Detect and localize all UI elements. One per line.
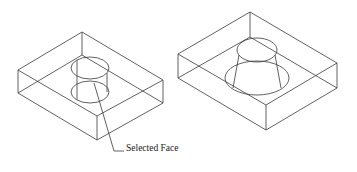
- left-box: [18, 32, 163, 140]
- right-box: [178, 12, 337, 130]
- cone-top-ellipse: [237, 38, 277, 62]
- selected-face-label: Selected Face: [126, 143, 179, 153]
- left-box-top-face: [18, 32, 163, 116]
- left-cylinder: [71, 57, 109, 103]
- right-box-top-face: [178, 12, 337, 105]
- diagram-svg: [0, 0, 357, 172]
- diagram-canvas: Selected Face: [0, 0, 357, 172]
